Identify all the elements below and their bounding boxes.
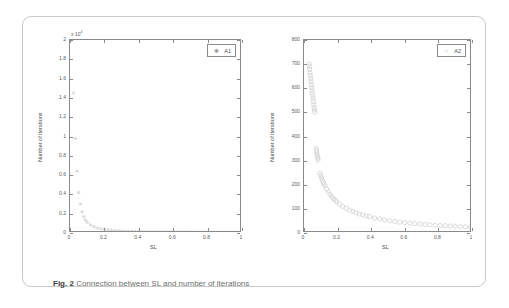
- y-tick: [70, 98, 73, 99]
- x-tick-label: 0: [302, 235, 305, 240]
- figure-frame: x 104 ✱ A1 00.20.40.60.811.21.41.61.8200…: [22, 16, 486, 287]
- y-tick-label: 200: [275, 181, 300, 186]
- y-tick-label: 1: [41, 133, 66, 138]
- x-tick-top: [208, 40, 209, 43]
- y-tick: [70, 59, 73, 60]
- x-tick-top: [304, 40, 305, 43]
- legend-a1: ✱ A1: [207, 44, 236, 57]
- y-tick-label: 0: [275, 230, 300, 235]
- y-tick-label: 1.6: [41, 75, 66, 80]
- x-tick-top: [173, 40, 174, 43]
- y-tick: [304, 112, 307, 113]
- x-tick-top: [242, 40, 243, 43]
- y-tick: [70, 175, 73, 176]
- y-tick-right: [237, 137, 240, 138]
- y-axis-exponent-label-a1: x 104: [71, 30, 82, 37]
- y-tick-label: 600: [275, 85, 300, 90]
- y-tick-right: [467, 112, 470, 113]
- y-tick-right: [237, 40, 240, 41]
- x-tick: [472, 228, 473, 231]
- figure-number: Fig. 2: [53, 279, 74, 288]
- y-tick-label: 800: [275, 37, 300, 42]
- y-tick: [304, 185, 307, 186]
- x-tick-label: 0.4: [134, 235, 141, 240]
- y-tick-label: 2: [41, 37, 66, 42]
- y-tick-right: [467, 40, 470, 41]
- y-tick: [70, 117, 73, 118]
- x-tick: [371, 228, 372, 231]
- x-tick-label: 1: [470, 235, 473, 240]
- y-tick-right: [467, 88, 470, 89]
- x-tick: [173, 228, 174, 231]
- y-tick-label: 700: [275, 61, 300, 66]
- x-tick-label: 0.2: [100, 235, 107, 240]
- y-tick-label: 300: [275, 157, 300, 162]
- scatter-data-a2: [304, 40, 470, 231]
- y-tick-right: [237, 194, 240, 195]
- y-tick-right: [237, 175, 240, 176]
- x-tick-top: [338, 40, 339, 43]
- x-tick-top: [70, 40, 71, 43]
- x-tick-label: 1: [240, 235, 243, 240]
- y-tick-right: [237, 79, 240, 80]
- y-tick: [70, 79, 73, 80]
- x-tick-label: 0.8: [203, 235, 210, 240]
- x-tick-label: 0.6: [169, 235, 176, 240]
- y-tick-label: 0.4: [41, 191, 66, 196]
- x-tick: [338, 228, 339, 231]
- x-tick: [242, 228, 243, 231]
- figure-container: x 104 ✱ A1 00.20.40.60.811.21.41.61.8200…: [0, 0, 509, 308]
- x-tick: [438, 228, 439, 231]
- x-tick-top: [472, 40, 473, 43]
- x-tick: [405, 228, 406, 231]
- y-tick: [304, 209, 307, 210]
- y-tick-label: 0.2: [41, 210, 66, 215]
- y-tick-label: 1.2: [41, 114, 66, 119]
- x-tick-top: [371, 40, 372, 43]
- y-tick-label: 1.4: [41, 94, 66, 99]
- y-tick: [70, 214, 73, 215]
- x-tick: [70, 228, 71, 231]
- y-tick-right: [237, 98, 240, 99]
- y-tick: [70, 137, 73, 138]
- y-axis-title-a2: Number of iterations: [269, 112, 275, 162]
- x-tick-top: [438, 40, 439, 43]
- legend-marker-circle-icon: ○: [438, 48, 454, 54]
- x-tick: [304, 228, 305, 231]
- y-tick: [70, 156, 73, 157]
- y-tick-right: [237, 156, 240, 157]
- y-tick-right: [237, 214, 240, 215]
- x-tick-label: 0.8: [434, 235, 441, 240]
- x-tick: [139, 228, 140, 231]
- figure-caption-text: Connection between SL and number of iter…: [76, 279, 249, 288]
- legend-label-a2: A2: [454, 48, 465, 54]
- y-tick-label: 0.6: [41, 172, 66, 177]
- x-axis-title-a2: SL: [382, 244, 389, 250]
- y-tick-label: 0: [41, 230, 66, 235]
- x-tick-top: [104, 40, 105, 43]
- figure-caption: Fig. 2 Connection between SL and number …: [53, 279, 493, 288]
- y-tick-right: [467, 209, 470, 210]
- x-axis-title-a1: SL: [150, 244, 157, 250]
- y-tick-right: [467, 185, 470, 186]
- y-tick-label: 400: [275, 133, 300, 138]
- plot-axes-a1: ✱ A1: [69, 39, 241, 232]
- x-tick-label: 0: [68, 235, 71, 240]
- y-tick-label: 100: [275, 205, 300, 210]
- y-tick-right: [237, 59, 240, 60]
- x-tick-top: [139, 40, 140, 43]
- y-tick-right: [467, 161, 470, 162]
- legend-a2: ○ A2: [437, 44, 466, 57]
- x-tick-label: 0.6: [400, 235, 407, 240]
- y-tick: [70, 194, 73, 195]
- y-tick-right: [467, 137, 470, 138]
- x-tick-label: 0.2: [333, 235, 340, 240]
- y-tick: [304, 64, 307, 65]
- legend-marker-asterisk-icon: ✱: [208, 48, 224, 54]
- legend-label-a1: A1: [224, 48, 235, 54]
- chart-panel-a1: x 104 ✱ A1 00.20.40.60.811.21.41.61.8200…: [29, 17, 257, 253]
- scatter-data-a1: [70, 40, 240, 231]
- x-tick: [208, 228, 209, 231]
- plot-axes-a2: ○ A2: [303, 39, 471, 232]
- x-tick: [104, 228, 105, 231]
